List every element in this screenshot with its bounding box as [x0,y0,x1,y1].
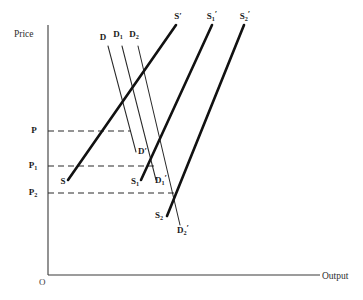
supply-label-s-top: S′ [174,11,182,21]
price-label-p-base: P [31,125,37,135]
price-label-p: P [31,125,37,135]
chart-canvas: Price Output O P P1 P2 [0,0,363,300]
demand-label-d1-top-sub: 1 [120,33,123,40]
supply-label-s1-bottom-sub: 1 [136,180,139,187]
demand-bottom-labels: D′ D1′ D2′ [138,146,189,236]
supply-label-s1-top-prime: ′ [215,9,218,19]
supply-label-s-bottom-base: S [60,176,65,186]
supply-label-s2-bottom: S2 [155,210,163,221]
demand-label-d-top-base: D [100,32,107,42]
price-label-p2-sub: 2 [34,191,37,198]
supply-top-labels: S′ S1′ S2′ [174,9,250,22]
demand-label-d-top: D [100,32,107,42]
price-label-p1-sub: 1 [34,164,37,171]
price-label-p1: P1 [29,160,38,171]
supply-curve-s2 [167,25,244,216]
demand-label-d1-bottom-prime: ′ [165,173,168,183]
supply-label-s2-top: S2′ [240,9,251,22]
y-axis-label: Price [14,29,34,39]
demand-label-d2-top-sub: 2 [136,33,139,40]
x-axis-label: Output [322,271,349,281]
demand-label-d1-bottom: D1′ [155,173,167,186]
origin-label: O [39,277,46,287]
supply-label-s2-bottom-sub: 2 [160,214,163,221]
demand-curve-d [108,46,136,152]
demand-label-d2-bottom: D2′ [177,223,189,236]
demand-label-d2-top: D2 [129,29,139,40]
demand-label-d2-bottom-prime: ′ [187,223,190,233]
supply-label-s2-top-prime: ′ [248,9,251,19]
supply-label-s-top-prime: ′ [179,11,182,21]
supply-curve-s [68,25,176,180]
demand-label-d-bottom-prime: ′ [145,146,148,156]
price-label-p2: P2 [29,187,38,198]
supply-demand-diagram: Price Output O P P1 P2 [0,0,363,300]
demand-label-d-bottom: D′ [138,146,147,156]
demand-top-labels: D D1 D2 [100,29,139,42]
demand-label-d1-top: D1 [113,29,123,40]
supply-label-s1-bottom: S1 [131,176,139,187]
supply-label-s-bottom: S [60,176,65,186]
supply-label-s1-top: S1′ [207,9,218,22]
price-axis-labels: P P1 P2 [29,125,38,198]
supply-bottom-labels: S S1 S2 [60,176,163,221]
